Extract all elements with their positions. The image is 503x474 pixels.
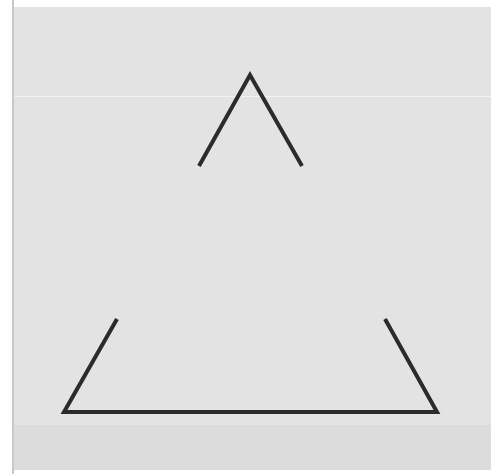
bottom-right-corner-fragment	[250, 319, 437, 412]
illusory-triangle-figure	[0, 0, 503, 474]
bottom-left-corner-fragment	[64, 319, 250, 412]
top-apex-fragment	[199, 75, 302, 166]
